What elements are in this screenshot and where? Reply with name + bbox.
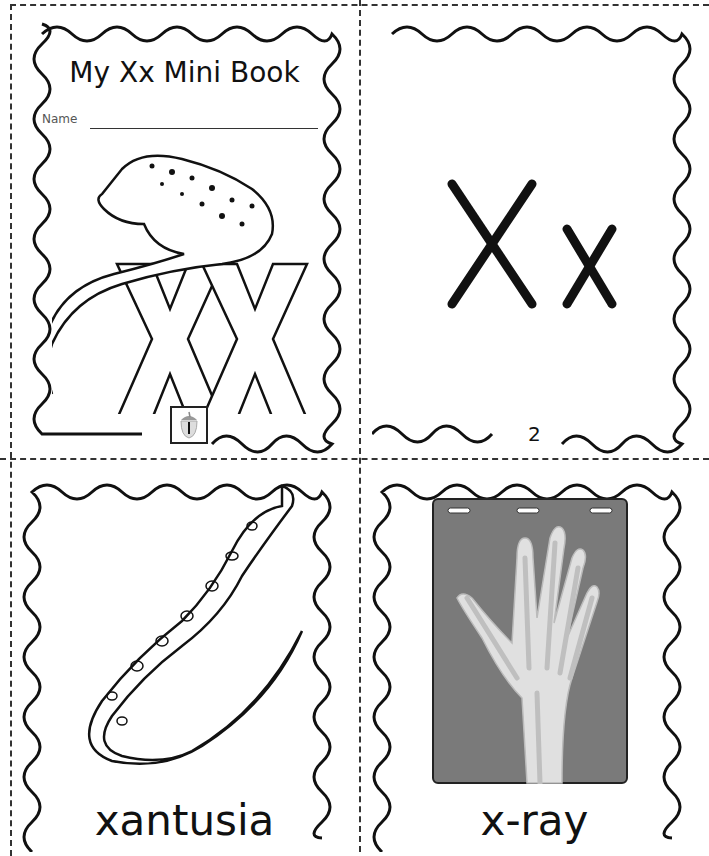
name-label: Name (42, 112, 77, 126)
acorn-icon (172, 408, 206, 442)
cut-line-center-horizontal (0, 458, 709, 460)
xantusia-panel: xantusia (22, 466, 347, 852)
word-label: xantusia (22, 796, 347, 845)
x-ray-panel: x-ray (372, 466, 697, 852)
x-ray-hand-icon (432, 498, 628, 784)
cover-panel: My Xx Mini Book Name (22, 14, 347, 454)
cut-line-left (10, 4, 12, 856)
letters-xx (442, 174, 632, 314)
book-title: My Xx Mini Book (22, 56, 347, 89)
letter-page-panel: Xx 2 (372, 14, 697, 454)
cut-line-center-vertical (359, 0, 361, 852)
word-label: x-ray (372, 796, 697, 845)
page-number: 2 (528, 422, 541, 446)
lizard-on-letters-icon (52, 144, 322, 414)
xantusia-lizard-icon (52, 476, 322, 776)
name-input-line[interactable] (90, 128, 318, 129)
acorn-badge (170, 406, 208, 444)
